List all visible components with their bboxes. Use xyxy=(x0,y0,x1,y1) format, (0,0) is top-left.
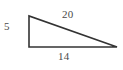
vertical-leg-label: 5 xyxy=(4,21,10,32)
hypotenuse-label: 20 xyxy=(62,9,73,20)
base-label: 14 xyxy=(58,51,69,62)
triangle-outline xyxy=(29,16,117,47)
geometry-figure: 5 20 14 xyxy=(0,0,123,70)
